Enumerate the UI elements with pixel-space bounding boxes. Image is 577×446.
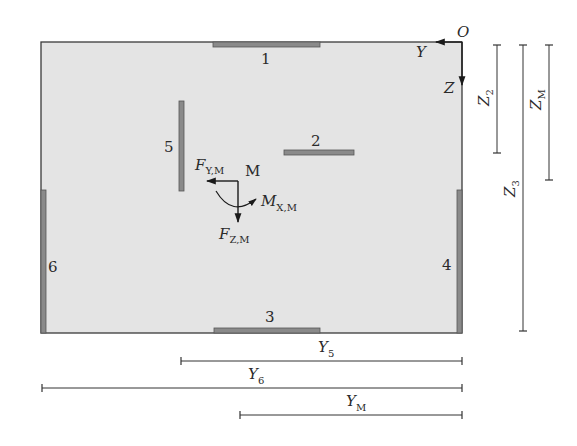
plate-6 — [41, 190, 46, 333]
plate-2 — [284, 150, 354, 155]
plate-5-label: 5 — [164, 138, 174, 156]
svg-text:Z3: Z3 — [501, 180, 521, 198]
plate-1-label: 1 — [261, 50, 271, 68]
dimension-z2: Z2 — [475, 45, 501, 153]
svg-text:YM: YM — [346, 392, 366, 413]
dimension-z3: Z3 — [501, 45, 527, 331]
plate-layout-diagram: 1 2 3 4 5 6 O Y Z M FY,M FZ,M MX,M Z2 Z3 — [0, 0, 577, 446]
origin-label: O — [457, 23, 469, 41]
plate-1 — [213, 42, 320, 47]
svg-text:Z2: Z2 — [475, 89, 495, 107]
plate-5 — [179, 101, 184, 191]
dimension-y5: Y5 — [181, 338, 462, 365]
load-point-label: M — [245, 162, 260, 180]
z-axis-label: Z — [443, 79, 455, 97]
plate-3 — [214, 328, 320, 333]
plate-2-label: 2 — [311, 132, 321, 150]
plate-4-label: 4 — [442, 256, 452, 274]
panel-body — [41, 42, 462, 333]
svg-text:Y5: Y5 — [318, 338, 334, 359]
svg-text:Y6: Y6 — [248, 365, 264, 386]
svg-text:ZM: ZM — [527, 89, 547, 111]
plate-3-label: 3 — [265, 308, 275, 326]
plate-4 — [457, 190, 462, 333]
dimension-ym: YM — [240, 392, 462, 419]
dimension-y6: Y6 — [42, 365, 462, 392]
dimension-zm: ZM — [527, 45, 553, 180]
plate-6-label: 6 — [48, 258, 58, 276]
